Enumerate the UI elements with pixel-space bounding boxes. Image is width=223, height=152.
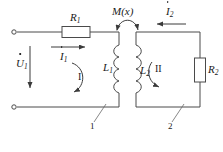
resistor-r2 xyxy=(195,58,206,82)
label-inductor-1: L1 xyxy=(103,62,113,74)
circuit-diagram-canvas: U1 R1 I1 I2 M(x) L1 L2 R2 I II 1 2 xyxy=(0,0,223,152)
label-source-voltage: U1 xyxy=(16,58,28,70)
terminal-bottom xyxy=(12,105,16,109)
label-resistor-1: R1 xyxy=(70,12,80,24)
resistor-r1 xyxy=(62,27,90,38)
label-current-2: I2 xyxy=(166,6,173,18)
label-resistor-2: R2 xyxy=(208,64,218,76)
mutual-coupling-arc xyxy=(117,20,138,30)
label-loop-1: I xyxy=(78,72,81,82)
label-mesh-marker-1: 1 xyxy=(90,122,95,131)
label-mesh-marker-2: 2 xyxy=(168,122,173,131)
label-inductor-2: L2 xyxy=(140,65,150,77)
inductor-l1 xyxy=(114,45,119,93)
label-mutual-inductance: M(x) xyxy=(112,6,133,17)
label-loop-2: II xyxy=(155,64,162,74)
circuit-schematic-svg xyxy=(0,0,223,152)
terminal-top xyxy=(12,30,16,34)
label-current-1: I1 xyxy=(60,51,67,63)
